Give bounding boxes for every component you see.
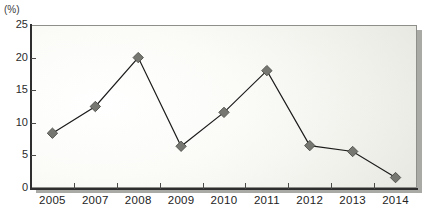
data-point-marker bbox=[347, 146, 357, 156]
data-point-marker bbox=[47, 128, 57, 138]
y-tick-label: 25 bbox=[2, 19, 28, 30]
x-axis-line bbox=[30, 188, 418, 190]
x-tick-label: 2007 bbox=[73, 194, 117, 207]
x-tick-label: 2010 bbox=[202, 194, 246, 207]
x-tick-label: 2008 bbox=[116, 194, 160, 207]
series-markers bbox=[47, 52, 401, 182]
y-tick-label: 15 bbox=[2, 84, 28, 95]
y-tick-label: 0 bbox=[2, 182, 28, 193]
x-tick-label: 2012 bbox=[288, 194, 332, 207]
y-axis-tick-labels: 0510152025 bbox=[0, 0, 28, 216]
title-remnant-text bbox=[150, 0, 330, 2]
chart-figure: (%) 0510152025 2005200720082009201020112… bbox=[0, 0, 423, 216]
y-tick-label: 5 bbox=[2, 149, 28, 160]
x-tick-label: 2014 bbox=[374, 194, 418, 207]
series-plot bbox=[31, 25, 417, 188]
y-tick-label: 20 bbox=[2, 52, 28, 63]
data-point-marker bbox=[305, 140, 315, 150]
y-tick-label: 10 bbox=[2, 117, 28, 128]
data-point-marker bbox=[390, 172, 400, 182]
x-tick-label: 2005 bbox=[30, 194, 74, 207]
x-tick-label: 2009 bbox=[159, 194, 203, 207]
x-tick-label: 2013 bbox=[331, 194, 375, 207]
x-tick-label: 2011 bbox=[245, 194, 289, 207]
